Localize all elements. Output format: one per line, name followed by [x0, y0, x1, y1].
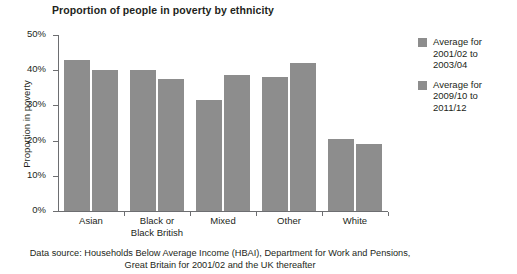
legend-label-0-line-1: Average for: [433, 36, 482, 47]
bar-mixed-series-0: [196, 100, 222, 211]
bar-white-series-1: [356, 144, 382, 211]
chart-title: Proportion of people in poverty by ethni…: [52, 4, 274, 16]
x-axis-line: [58, 211, 388, 212]
y-tick-label-0: 0%: [32, 204, 46, 215]
footnote-line-2: Great Britain for 2001/02 and the UK the…: [0, 260, 440, 272]
plot-area: Proportion in poverty 0% 10% 20% 30% 40%…: [58, 35, 388, 212]
bar-group-mixed: [190, 35, 256, 211]
bar-other-series-1: [290, 63, 316, 211]
y-tick-0: 0%: [53, 211, 58, 212]
chart-legend: Average for 2001/02 to 2003/04 Average f…: [418, 36, 513, 122]
bar-black-series-0: [130, 70, 156, 211]
x-category-label-white: White: [305, 215, 405, 227]
bar-group-black-or-black-british: [124, 35, 190, 211]
bar-group-other: [256, 35, 322, 211]
legend-label-1-line-1: Average for: [433, 79, 482, 90]
legend-item-1[interactable]: Average for 2009/10 to 2011/12: [418, 79, 513, 114]
bar-black-series-1: [158, 79, 184, 211]
legend-label-1: Average for 2009/10 to 2011/12: [433, 79, 482, 114]
x-category-label-black-line-2: Black British: [107, 227, 207, 239]
y-tick-label-2: 20%: [27, 134, 46, 145]
bar-group-asian: [58, 35, 124, 211]
legend-item-0[interactable]: Average for 2001/02 to 2003/04: [418, 36, 513, 71]
legend-label-0-line-2: 2001/02 to: [433, 48, 478, 59]
bar-asian-series-0: [64, 60, 90, 211]
legend-swatch-icon-1: [418, 81, 427, 90]
y-tick-label-5: 50%: [27, 28, 46, 39]
y-tick-label-1: 10%: [27, 169, 46, 180]
y-tick-label-4: 40%: [27, 63, 46, 74]
bar-other-series-0: [262, 77, 288, 211]
y-axis-title: Proportion in poverty: [21, 80, 32, 168]
legend-label-1-line-3: 2011/12: [433, 102, 467, 113]
bar-asian-series-1: [92, 70, 118, 211]
y-tick-label-3: 30%: [27, 98, 46, 109]
footnote-line-1: Data source: Households Below Average In…: [0, 248, 440, 260]
bar-group-white: [322, 35, 388, 211]
bar-mixed-series-1: [224, 75, 250, 211]
chart-footnote: Data source: Households Below Average In…: [0, 248, 440, 271]
legend-label-0: Average for 2001/02 to 2003/04: [433, 36, 482, 71]
legend-label-0-line-3: 2003/04: [433, 59, 467, 70]
bar-white-series-0: [328, 139, 354, 211]
legend-label-1-line-2: 2009/10 to: [433, 90, 478, 101]
x-category-label-white-line-1: White: [305, 215, 405, 227]
legend-swatch-icon-0: [418, 38, 427, 47]
